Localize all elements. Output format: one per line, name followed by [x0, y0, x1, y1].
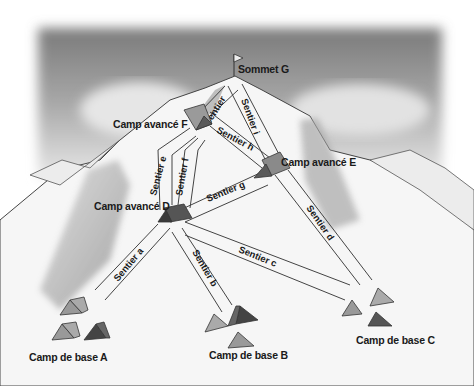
base-camp-label-C: Camp de base C [356, 334, 435, 346]
base-camp-label-B: Camp de base B [209, 349, 288, 361]
mountain-map: Sentier a Sentier b Sentier c Sentier d … [0, 0, 474, 386]
summit-label: Sommet G [238, 63, 289, 75]
camp-label-F: Camp avancé F [113, 118, 187, 130]
base-camp-label-A: Camp de base A [29, 351, 108, 363]
camp-label-D: Camp avancé D [94, 200, 170, 212]
camp-label-E: Camp avancé E [281, 156, 356, 168]
